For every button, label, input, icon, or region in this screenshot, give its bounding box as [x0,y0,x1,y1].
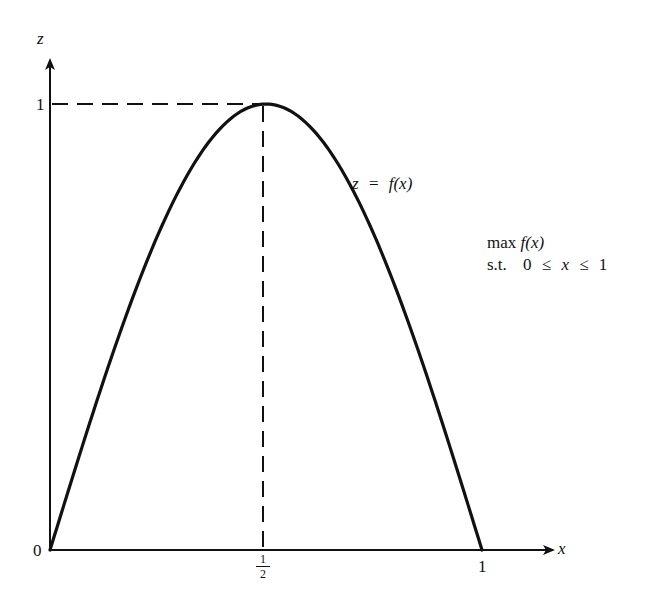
optimization-problem: max f(x) s.t. 0 ≤ x ≤ 1 [487,232,607,276]
objective-row: max f(x) [487,232,607,254]
curve-label-lhs: z [352,174,359,193]
curve-label: z = f(x) [352,175,412,192]
x-tick-half-numerator: 1 [256,553,270,567]
x-tick-label-half: 1 2 [256,553,270,580]
function-curve [50,104,482,550]
z-tick-label-1: 1 [36,96,45,113]
constraint-prefix: s.t. [487,255,507,274]
diagram-canvas [0,0,668,614]
curve-label-rhs: f(x) [389,174,413,193]
origin-label: 0 [33,542,42,559]
constraint-var: x [561,255,569,274]
constraint-upper: 1 [599,255,608,274]
constraint-row: s.t. 0 ≤ x ≤ 1 [487,254,607,276]
x-tick-half-denominator: 2 [256,567,270,580]
objective-op: max [487,233,516,252]
constraint-rel2: ≤ [579,255,588,274]
z-axis-label: z [37,30,44,47]
objective-fn: f(x) [521,233,545,252]
x-axis-label: x [558,540,566,557]
constraint-rel1: ≤ [542,255,551,274]
curve-label-eq: = [369,174,379,193]
constraint-lower: 0 [523,255,532,274]
x-tick-label-1: 1 [478,558,487,575]
